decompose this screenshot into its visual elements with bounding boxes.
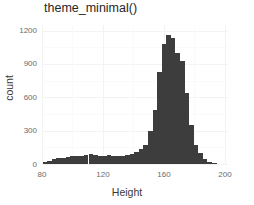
histogram-chart: theme_minimal() 03006009001200 801201602… (0, 0, 254, 205)
x-tick-label: 160 (150, 170, 178, 179)
chart-title: theme_minimal() (44, 1, 137, 15)
y-tick-label: 900 (24, 59, 37, 68)
y-tick-label: 600 (24, 93, 37, 102)
x-tick-label: 80 (28, 170, 56, 179)
y-tick-label: 300 (24, 126, 37, 135)
y-axis-title: count (3, 62, 15, 114)
x-axis-tick-labels: 80120160200 (42, 170, 228, 181)
y-axis-tick-labels: 03006009001200 (12, 25, 37, 164)
x-tick-label: 200 (211, 170, 239, 179)
histogram-bars (42, 25, 228, 164)
x-tick-label: 120 (89, 170, 117, 179)
gridline-major-horizontal (42, 164, 228, 165)
plot-area (42, 25, 228, 164)
x-axis-title: Height (0, 186, 254, 198)
y-tick-label: 1200 (19, 26, 37, 35)
histogram-bar (212, 163, 217, 164)
y-tick-label: 0 (33, 160, 37, 169)
